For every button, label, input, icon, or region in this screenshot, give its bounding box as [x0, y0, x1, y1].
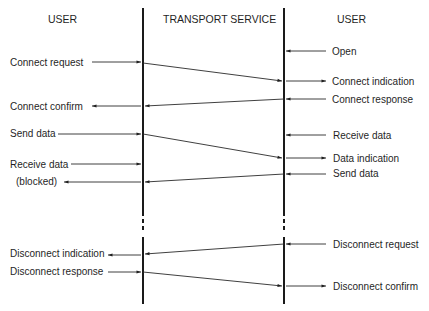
left-primitive-blocked: (blocked) [16, 176, 141, 187]
right-primitive-send-data: Send data [286, 168, 379, 179]
svg-text:Disconnect request: Disconnect request [333, 239, 419, 250]
right-primitive-disconnect-request: Disconnect request [286, 239, 419, 250]
right-primitive-disconnect-confirm: Disconnect confirm [286, 281, 418, 292]
left-primitive-disconnect-response: Disconnect response [10, 266, 141, 277]
left-primitive-receive-data: Receive data [10, 159, 141, 170]
header-right-user: USER [337, 13, 367, 25]
svg-text:Connect request: Connect request [10, 57, 84, 68]
svg-text:Connect response: Connect response [332, 94, 414, 105]
svg-text:Send data: Send data [333, 168, 379, 179]
message-disconnect-response [143, 272, 282, 286]
svg-text:Connect confirm: Connect confirm [10, 101, 83, 112]
right-primitive-connect-indication: Connect indication [286, 76, 414, 87]
right-primitive-receive-data: Receive data [286, 130, 392, 141]
svg-text:Disconnect indication: Disconnect indication [10, 248, 105, 259]
message-send-data-left-to-right [143, 134, 282, 158]
message-connect-response [145, 99, 284, 106]
right-primitive-open: Open [286, 46, 356, 57]
svg-text:Receive data: Receive data [333, 130, 392, 141]
left-primitive-send-data: Send data [10, 128, 141, 139]
svg-text:Open: Open [332, 46, 356, 57]
header-transport-service: TRANSPORT SERVICE [163, 13, 276, 25]
header-left-user: USER [48, 13, 78, 25]
svg-text:Send data: Send data [10, 128, 56, 139]
message-disconnect-request [145, 244, 284, 254]
message-send-data-right-to-left [145, 174, 284, 182]
right-primitive-connect-response: Connect response [286, 94, 414, 105]
left-primitive-connect-confirm: Connect confirm [10, 101, 141, 112]
svg-text:Data indication: Data indication [333, 153, 399, 164]
transport-service-sequence-diagram: USER TRANSPORT SERVICE USER Connect requ… [0, 0, 429, 311]
left-primitive-connect-request: Connect request [10, 57, 141, 68]
message-connect [143, 63, 282, 81]
svg-text:Connect indication: Connect indication [332, 76, 414, 87]
right-primitive-data-indication: Data indication [286, 153, 399, 164]
svg-text:Receive data: Receive data [10, 159, 69, 170]
svg-text:Disconnect response: Disconnect response [10, 266, 104, 277]
left-primitive-disconnect-indication: Disconnect indication [10, 248, 141, 259]
svg-text:Disconnect confirm: Disconnect confirm [333, 281, 418, 292]
svg-text:(blocked): (blocked) [16, 176, 57, 187]
